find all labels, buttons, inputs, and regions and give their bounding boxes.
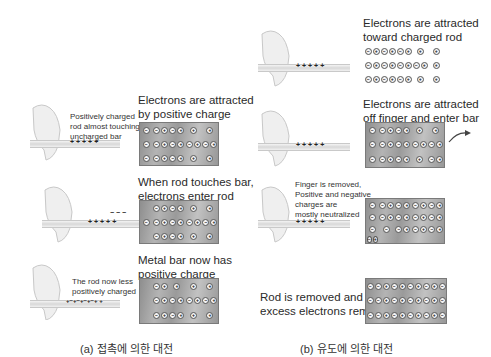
- positive-charge-icon: +: [177, 233, 184, 240]
- charge-cell: −+: [422, 308, 438, 323]
- positive-charge-icon: +: [173, 283, 180, 290]
- positive-charge-icon: +: [405, 76, 412, 83]
- hand-icon: [257, 108, 307, 168]
- negative-charge-icon: −: [143, 127, 150, 134]
- positive-charge-icon: +: [421, 62, 428, 69]
- negative-charge-icon: −: [369, 202, 376, 209]
- positive-charge-icon: +: [206, 127, 213, 134]
- positive-charge-icon: +: [433, 48, 440, 55]
- charge-cell: +: [185, 201, 202, 215]
- negative-charge-icon: −: [169, 127, 176, 134]
- positive-charge-icon: +: [373, 236, 378, 243]
- negative-charge-icon: −: [412, 202, 419, 209]
- rod-electrons: − − −: [110, 209, 126, 216]
- metal-bar: −++++−+−+−+−+−+−+++: [139, 278, 219, 324]
- charge-cell: −+: [411, 224, 428, 236]
- positive-charge-icon: +: [177, 297, 184, 304]
- charge-cell: +: [428, 44, 444, 58]
- positive-charge-icon: +: [417, 48, 424, 55]
- bar-label: Electrons are attracted off finger and e…: [363, 97, 479, 125]
- negative-charge-icon: −: [367, 312, 374, 319]
- charge-cell: −+: [428, 224, 445, 236]
- charge-cell: −: [140, 137, 152, 151]
- positive-charge-icon: +: [403, 214, 410, 221]
- negative-charge-icon: −: [186, 141, 193, 148]
- charge-cell: −+: [396, 72, 412, 86]
- charge-cell: −+: [428, 138, 445, 153]
- charge-cell: −+: [169, 151, 186, 165]
- charge-cell: +: [185, 229, 202, 243]
- negative-charge-icon: −: [169, 219, 176, 226]
- negative-charge-icon: −: [428, 214, 435, 221]
- bar-charges: −−+−+−+−+−−−+−+−+−+−−−+−+−+−+−: [366, 279, 446, 323]
- negative-charge-icon: −: [169, 205, 176, 212]
- bar-label: Metal bar now has positive charge: [138, 253, 232, 281]
- charge-cell: −: [366, 211, 378, 223]
- negative-charge-icon: −: [423, 312, 430, 319]
- negative-charge-icon: −: [379, 127, 386, 134]
- negative-charge-icon: −: [153, 233, 160, 240]
- charge-cell: +: [411, 123, 428, 138]
- charge-cell: +: [169, 279, 186, 294]
- positive-charge-icon: +: [190, 205, 197, 212]
- charge-cell: −+: [380, 44, 396, 58]
- negative-charge-icon: −: [202, 219, 209, 226]
- metal-bar: −−+−+++−−+−+−+−+−−+−+++: [139, 122, 219, 166]
- charge-cell: −: [366, 152, 378, 167]
- negative-charge-icon: −: [169, 312, 176, 319]
- positive-charge-icon: +: [210, 297, 217, 304]
- charge-cell: −+: [395, 123, 412, 138]
- negative-charge-icon: −: [153, 205, 160, 212]
- positive-charge-icon: +: [403, 202, 410, 209]
- charge-cell: −+: [169, 201, 186, 215]
- charge-cell: −+: [152, 151, 169, 165]
- positive-charge-icon: +: [432, 127, 439, 134]
- charge-cell: −+: [411, 138, 428, 153]
- charge-cell: −: [438, 294, 446, 309]
- charge-cell: −+: [396, 58, 412, 72]
- charge-cell: −: [366, 224, 378, 236]
- negative-charge-icon: −: [143, 155, 150, 162]
- charge-cell: −+: [374, 308, 390, 323]
- charge-cell: −+: [390, 294, 406, 309]
- positive-charge-icon: +: [403, 226, 410, 233]
- charge-cell: −+: [169, 215, 186, 229]
- charge-cell: −+: [374, 279, 390, 294]
- negative-charge-icon: −: [379, 202, 386, 209]
- bar-charges: −−+−+++−−+−+−+−+−−+−++−+: [366, 123, 444, 167]
- charge-cell: −+: [395, 224, 412, 236]
- negative-charge-icon: −: [381, 48, 388, 55]
- positive-charge-icon: +: [433, 76, 440, 83]
- charge-cell: −+: [185, 137, 202, 151]
- charge-cell: −: [438, 308, 446, 323]
- negative-charge-icon: −: [395, 226, 402, 233]
- charge-cell: −: [378, 224, 395, 236]
- charge-cell: −: [366, 199, 378, 211]
- positive-charge-icon: +: [387, 156, 394, 163]
- charge-cell: +: [202, 308, 219, 323]
- rod-charges: + + + + +: [88, 218, 116, 225]
- charge-cell: −: [366, 279, 374, 294]
- charge-cell: +: [185, 308, 202, 323]
- bar-charges: −+−+−+++−+−+−+−++−+−+−+++: [364, 44, 444, 86]
- positive-charge-icon: +: [194, 297, 201, 304]
- negative-charge-icon: −: [395, 156, 402, 163]
- charge-cell: −+: [411, 199, 428, 211]
- positive-charge-icon: +: [403, 156, 410, 163]
- charge-cell: −+: [185, 294, 202, 309]
- charge-cell: [140, 279, 152, 294]
- negative-charge-icon: −: [439, 297, 446, 304]
- rod-label: The rod now less positively charged: [72, 277, 136, 297]
- charge-cell: +: [428, 72, 444, 86]
- charge-cell: −+: [395, 211, 412, 223]
- positive-charge-icon: +: [387, 127, 394, 134]
- charge-cell: −+: [422, 294, 438, 309]
- rod-charges: +−+−+−+−+ +: [66, 298, 103, 304]
- rod-charges: + + + + +: [296, 62, 324, 69]
- negative-charge-icon: −: [379, 141, 386, 148]
- positive-charge-icon: +: [161, 127, 168, 134]
- metal-bar: −+−+++−−+−+−+−+−+−+++: [139, 200, 219, 244]
- negative-charge-icon: −: [391, 297, 398, 304]
- positive-charge-icon: +: [436, 156, 443, 163]
- positive-charge-icon: +: [436, 141, 443, 148]
